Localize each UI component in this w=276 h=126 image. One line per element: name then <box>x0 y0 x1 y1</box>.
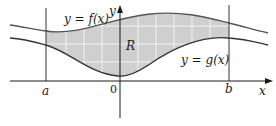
x-axis-arrow-icon <box>265 78 273 84</box>
region-grid <box>0 0 276 90</box>
label-g-curve: y = g(x) <box>180 53 230 67</box>
region-r <box>0 0 276 90</box>
label-b: b <box>225 82 233 96</box>
label-y-axis: y <box>108 4 116 18</box>
label-a: a <box>42 84 49 98</box>
label-region-r: R <box>125 39 135 53</box>
label-origin: 0 <box>110 83 117 96</box>
x-axis <box>10 78 273 84</box>
diagram: y = f(x) y = g(x) R y x a b 0 <box>0 0 276 126</box>
label-f-curve: y = f(x) <box>63 12 109 26</box>
y-axis-arrow-icon <box>117 5 123 13</box>
label-x-axis: x <box>259 84 266 98</box>
